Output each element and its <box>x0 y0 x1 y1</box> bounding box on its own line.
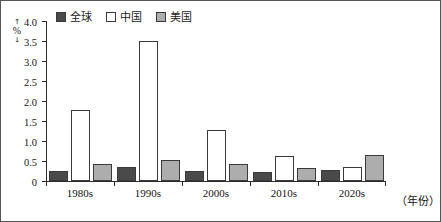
bar-global-1980s <box>49 171 68 181</box>
legend-swatch-global <box>56 12 66 22</box>
bar-group-1990s: 1990s <box>114 22 182 181</box>
x-axis-title: （年份） <box>396 192 440 208</box>
bar-group-2010s: 2010s <box>250 22 318 181</box>
plot-area: 0 0.5 1.0 1.5 2.0 2.5 3.0 3.5 4.0 <box>46 22 386 182</box>
x-tick-label-2010s: 2010s <box>271 187 297 199</box>
y-tick-label-1: 0.5 <box>24 156 37 167</box>
bar-group-2020s: 2020s <box>318 22 386 181</box>
bar-group-bars <box>250 22 318 181</box>
bar-usa-2020s <box>365 155 384 181</box>
legend-label-global: 全球 <box>70 12 92 23</box>
bar-china-1990s <box>139 41 158 181</box>
x-tick-label-2020s: 2020s <box>339 187 365 199</box>
x-tick-label-2000s: 2000s <box>203 187 229 199</box>
y-tick-label-8: 4.0 <box>24 16 37 27</box>
legend-swatch-china <box>106 12 116 22</box>
bar-group-1980s: 1980s <box>46 22 114 181</box>
legend-swatch-usa <box>156 12 166 22</box>
bar-group-bars <box>46 22 114 181</box>
x-tick-label-1980s: 1980s <box>67 187 93 199</box>
y-tick-label-6: 3.0 <box>24 56 37 67</box>
bar-usa-1990s <box>161 160 180 181</box>
bar-china-1980s <box>71 110 90 181</box>
x-tick-0 <box>46 181 47 186</box>
bar-global-2000s <box>185 171 204 181</box>
x-tick-3 <box>250 181 251 186</box>
legend-label-usa: 美国 <box>170 12 192 23</box>
y-tick-label-2: 1.0 <box>24 136 37 147</box>
x-tick-1 <box>114 181 115 186</box>
bar-group-2000s: 2000s <box>182 22 250 181</box>
x-tick-4 <box>318 181 319 186</box>
bar-china-2020s <box>343 167 362 181</box>
y-tick-label-7: 3.5 <box>24 36 37 47</box>
bar-group-bars <box>114 22 182 181</box>
legend-label-china: 中国 <box>120 12 142 23</box>
bar-usa-2010s <box>297 168 316 181</box>
bar-usa-1980s <box>93 164 112 181</box>
y-tick-label-0: 0 <box>32 176 37 187</box>
bar-group-bars <box>182 22 250 181</box>
legend-entry-usa: 美国 <box>156 12 192 23</box>
y-tick-label-5: 2.5 <box>24 76 37 87</box>
x-tick-label-1990s: 1990s <box>135 187 161 199</box>
y-tick-label-3: 1.5 <box>24 116 37 127</box>
y-tick-label-4: 2.0 <box>24 96 37 107</box>
bar-china-2000s <box>207 130 226 181</box>
legend-entry-china: 中国 <box>106 12 142 23</box>
bar-global-2020s <box>321 170 340 181</box>
bar-global-1990s <box>117 167 136 181</box>
x-axis-line <box>46 181 386 182</box>
x-tick-2 <box>182 181 183 186</box>
bar-china-2010s <box>275 156 294 181</box>
bar-global-2010s <box>253 172 272 181</box>
bar-usa-2000s <box>229 164 248 181</box>
legend-entry-global: 全球 <box>56 12 92 23</box>
bar-chart-figure: 全球 中国 美国 ↑ % ↓ 0 0.5 1.0 1.5 <box>0 0 441 222</box>
bar-group-bars <box>318 22 386 181</box>
x-tick-5 <box>385 181 386 186</box>
